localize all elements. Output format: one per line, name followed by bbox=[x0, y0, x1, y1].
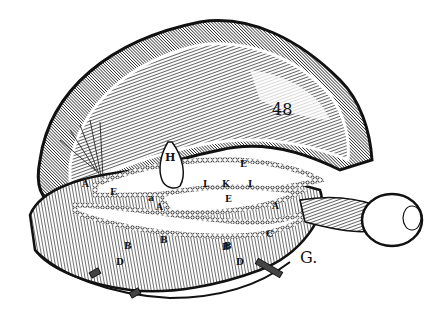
label-a-small: a bbox=[148, 194, 154, 203]
label-i: I bbox=[248, 180, 252, 189]
label-k: K bbox=[222, 180, 230, 189]
label-d1: D bbox=[116, 258, 124, 267]
figure-letter: G. bbox=[300, 250, 317, 266]
label-b1: B bbox=[124, 242, 132, 251]
plate-number: 48 bbox=[272, 102, 292, 118]
label-b4: B bbox=[224, 242, 232, 251]
label-h: H bbox=[165, 152, 175, 163]
label-a-center: A bbox=[156, 203, 163, 212]
label-l: L bbox=[203, 180, 209, 189]
label-a-left: A bbox=[82, 180, 89, 189]
label-b2: B bbox=[160, 236, 168, 245]
label-a-right: A bbox=[272, 202, 279, 211]
label-c: C bbox=[266, 230, 273, 239]
woodcut-illustration bbox=[0, 0, 431, 321]
label-e-left: E bbox=[110, 188, 117, 197]
label-e-center: E bbox=[225, 195, 232, 204]
label-e-right: E bbox=[240, 160, 247, 169]
label-d2: D bbox=[236, 258, 244, 267]
